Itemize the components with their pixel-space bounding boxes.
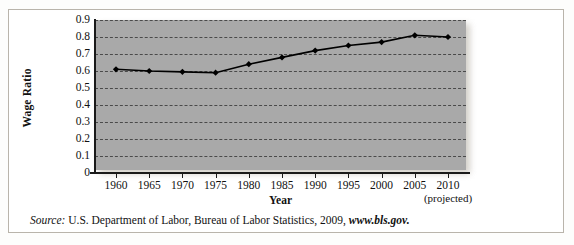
data-point-marker [312,48,318,54]
line-chart: 0.90.80.70.60.50.40.30.20.10 19601965197… [0,0,574,245]
projected-annotation: (projected) [398,192,498,204]
y-tick-label: 0.8 [50,31,90,42]
data-point-marker [179,69,185,75]
y-tick-label: 0.4 [50,99,90,110]
data-point-marker [246,61,252,67]
y-tick-label: 0.3 [50,116,90,127]
x-tick [116,172,117,178]
x-tick-label: 2010 [418,179,478,191]
y-tick-label: 0.5 [50,82,90,93]
data-point-marker [146,68,152,74]
data-point-marker [113,66,119,72]
source-prefix: Source: [30,214,65,226]
x-tick [282,172,283,178]
x-axis-line [90,172,470,174]
data-series-wage-ratio [95,20,466,170]
source-body: U.S. Department of Labor, Bureau of Labo… [65,214,348,226]
x-tick [315,172,316,178]
data-point-marker [379,39,385,45]
data-point-marker [412,32,418,38]
y-axis-tick-labels: 0.90.80.70.60.50.40.30.20.10 [44,0,90,245]
y-axis-line [94,19,96,174]
x-tick [182,172,183,178]
y-tick-label: 0.6 [50,65,90,76]
x-tick [249,172,250,178]
x-tick [216,172,217,178]
y-tick-label: 0.2 [50,133,90,144]
x-tick [348,172,349,178]
x-tick [415,172,416,178]
data-point-marker [445,34,451,40]
x-tick [382,172,383,178]
y-axis-title: Wage Ratio [21,43,33,153]
source-url: www.bls.gov. [349,214,410,226]
data-point-marker [345,42,351,48]
y-tick-label: 0.1 [50,150,90,161]
x-tick [149,172,150,178]
x-tick [448,172,449,178]
y-tick-label: 0 [50,167,90,178]
series-line [116,35,448,72]
y-tick-label: 0.7 [50,48,90,59]
plot-area [95,20,466,170]
y-tick-label: 0.9 [50,14,90,25]
data-point-marker [279,54,285,60]
figure-container: 0.90.80.70.60.50.40.30.20.10 19601965197… [0,0,574,245]
source-caption: Source: U.S. Department of Labor, Bureau… [30,214,410,226]
data-point-marker [213,70,219,76]
